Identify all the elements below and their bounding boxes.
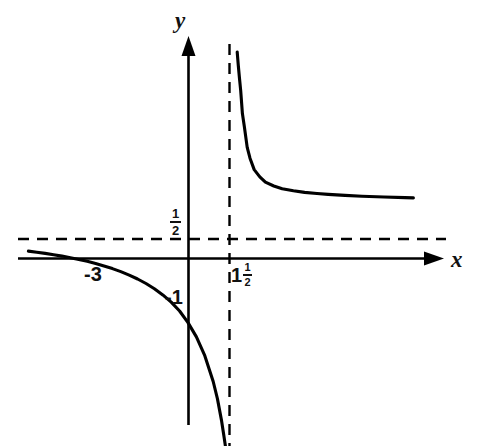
y-axis-label: y [175, 8, 185, 34]
one-and-half-denominator: 2 [244, 277, 252, 288]
curve-right-branch [237, 52, 413, 198]
x-intercept-label: -3 [84, 263, 102, 286]
y-intercept-label: -1 [165, 286, 183, 309]
one-and-half-integer: 1 [231, 265, 242, 285]
vertical-asymptote-label: 1 1 2 [231, 262, 252, 288]
one-and-half-fraction: 1 2 [243, 262, 252, 288]
horizontal-asymptote-label: 1 2 [170, 207, 181, 237]
curve-left-branch [28, 251, 225, 446]
y-axis-arrowhead [182, 36, 196, 56]
half-numerator: 1 [171, 207, 180, 220]
x-axis-arrowhead [424, 252, 444, 266]
half-denominator: 2 [171, 224, 180, 237]
graph-canvas [0, 0, 482, 446]
graph-figure: y x 1 2 1 1 2 -3 -1 [0, 0, 482, 446]
x-axis-label: x [451, 247, 463, 273]
one-and-half-numerator: 1 [244, 262, 252, 273]
